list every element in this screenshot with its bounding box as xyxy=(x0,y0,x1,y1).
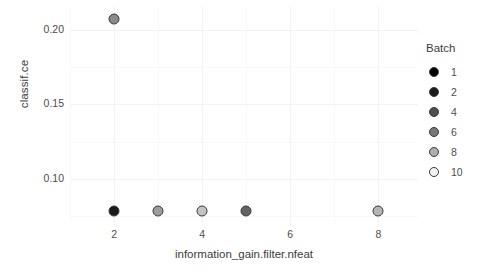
gridline-horizontal xyxy=(70,104,418,105)
legend-item: 1 xyxy=(424,62,482,82)
legend-key xyxy=(424,107,444,117)
legend-item: 4 xyxy=(424,102,482,122)
plot-panel xyxy=(70,6,418,225)
legend-dot-icon xyxy=(429,147,439,157)
gridline-horizontal xyxy=(70,179,418,180)
legend-key xyxy=(424,127,444,137)
data-point xyxy=(153,206,164,217)
legend-key xyxy=(424,67,444,77)
x-axis-tick-labels: 2468 xyxy=(70,228,418,242)
legend-item-label: 1 xyxy=(451,66,457,78)
data-point xyxy=(373,206,384,217)
x-axis-tick-label: 4 xyxy=(187,228,217,240)
x-axis-title: information_gain.filter.nfeat xyxy=(70,248,418,260)
legend-dot-icon xyxy=(429,127,439,137)
gridline-horizontal-minor xyxy=(70,67,418,68)
gridline-vertical xyxy=(378,6,379,225)
gridline-vertical xyxy=(114,6,115,225)
legend-dot-icon xyxy=(429,107,439,117)
legend-item-label: 6 xyxy=(451,126,457,138)
legend: Batch 1246810 xyxy=(424,42,482,182)
scatter-plot-figure: classif.ce 0.100.150.20 2468 information… xyxy=(0,0,482,273)
gridline-vertical-minor xyxy=(158,6,159,225)
legend-item: 10 xyxy=(424,162,482,182)
legend-dot-icon xyxy=(429,67,439,77)
legend-title: Batch xyxy=(426,42,482,54)
legend-item: 2 xyxy=(424,82,482,102)
legend-dot-icon xyxy=(429,167,439,177)
legend-items: 1246810 xyxy=(424,62,482,182)
y-axis-tick-label: 0.20 xyxy=(24,24,64,35)
gridline-vertical-minor xyxy=(70,6,71,225)
data-point xyxy=(241,206,252,217)
gridline-horizontal xyxy=(70,30,418,31)
legend-item-label: 10 xyxy=(451,166,463,178)
gridline-vertical xyxy=(290,6,291,225)
legend-item: 6 xyxy=(424,122,482,142)
y-axis-tick-labels: 0.100.150.20 xyxy=(22,0,64,273)
legend-key xyxy=(424,167,444,177)
legend-key xyxy=(424,87,444,97)
legend-item-label: 4 xyxy=(451,106,457,118)
x-axis-tick-label: 6 xyxy=(275,228,305,240)
gridline-vertical-minor xyxy=(246,6,247,225)
legend-item-label: 2 xyxy=(451,86,457,98)
y-axis-tick-label: 0.10 xyxy=(24,173,64,184)
gridline-vertical xyxy=(202,6,203,225)
x-axis-tick-label: 2 xyxy=(99,228,129,240)
data-point xyxy=(197,206,208,217)
legend-dot-icon xyxy=(429,87,439,97)
gridline-horizontal-minor xyxy=(70,142,418,143)
y-axis-tick-label: 0.15 xyxy=(24,98,64,109)
data-point xyxy=(109,13,120,24)
legend-item: 8 xyxy=(424,142,482,162)
x-axis-tick-label: 8 xyxy=(363,228,393,240)
legend-item-label: 8 xyxy=(451,146,457,158)
gridline-vertical-minor xyxy=(334,6,335,225)
data-point xyxy=(109,206,120,217)
legend-key xyxy=(424,147,444,157)
